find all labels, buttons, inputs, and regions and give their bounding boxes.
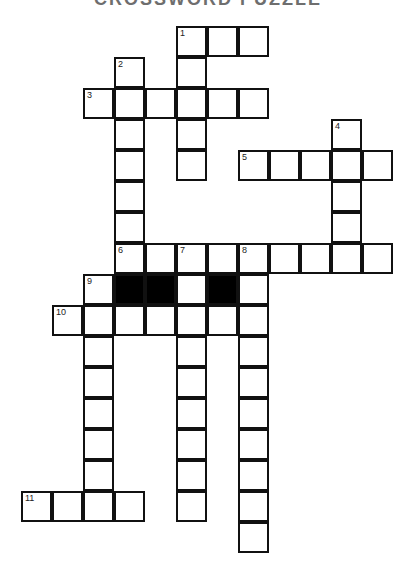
grid-cell[interactable] <box>52 491 83 522</box>
grid-cell[interactable] <box>176 57 207 88</box>
grid-cell[interactable] <box>238 429 269 460</box>
grid-cell[interactable] <box>331 181 362 212</box>
grid-cell[interactable] <box>83 398 114 429</box>
grid-cell[interactable] <box>362 243 393 274</box>
grid-cell[interactable]: 6 <box>114 243 145 274</box>
grid-cell[interactable] <box>331 150 362 181</box>
grid-cell[interactable] <box>176 367 207 398</box>
grid-cell[interactable] <box>238 398 269 429</box>
cell-input[interactable] <box>240 493 267 520</box>
grid-cell[interactable] <box>176 491 207 522</box>
grid-cell[interactable] <box>331 243 362 274</box>
cell-input[interactable] <box>85 462 112 489</box>
grid-cell[interactable]: 1 <box>176 26 207 57</box>
grid-cell[interactable] <box>114 305 145 336</box>
cell-input[interactable] <box>240 462 267 489</box>
cell-input[interactable] <box>240 245 267 272</box>
cell-input[interactable] <box>240 28 267 55</box>
grid-cell[interactable] <box>114 212 145 243</box>
grid-cell[interactable] <box>83 460 114 491</box>
grid-cell[interactable] <box>238 88 269 119</box>
grid-cell[interactable] <box>176 336 207 367</box>
grid-cell[interactable] <box>145 243 176 274</box>
cell-input[interactable] <box>333 152 360 179</box>
grid-cell[interactable] <box>176 274 207 305</box>
cell-input[interactable] <box>54 493 81 520</box>
cell-input[interactable] <box>23 493 50 520</box>
grid-cell[interactable] <box>83 305 114 336</box>
cell-input[interactable] <box>147 307 174 334</box>
cell-input[interactable] <box>85 90 112 117</box>
grid-cell[interactable] <box>238 26 269 57</box>
cell-input[interactable] <box>240 369 267 396</box>
cell-input[interactable] <box>178 400 205 427</box>
grid-cell[interactable] <box>269 243 300 274</box>
cell-input[interactable] <box>85 369 112 396</box>
cell-input[interactable] <box>271 245 298 272</box>
cell-input[interactable] <box>116 59 143 86</box>
cell-input[interactable] <box>116 245 143 272</box>
cell-input[interactable] <box>116 307 143 334</box>
grid-cell[interactable]: 4 <box>331 119 362 150</box>
cell-input[interactable] <box>85 493 112 520</box>
cell-input[interactable] <box>333 183 360 210</box>
cell-input[interactable] <box>178 90 205 117</box>
grid-cell[interactable] <box>207 305 238 336</box>
cell-input[interactable] <box>85 400 112 427</box>
cell-input[interactable] <box>209 245 236 272</box>
grid-cell[interactable] <box>269 150 300 181</box>
grid-cell[interactable]: 11 <box>21 491 52 522</box>
grid-cell[interactable] <box>176 460 207 491</box>
cell-input[interactable] <box>116 214 143 241</box>
grid-cell[interactable] <box>176 429 207 460</box>
cell-input[interactable] <box>240 431 267 458</box>
grid-cell[interactable] <box>83 491 114 522</box>
cell-input[interactable] <box>333 121 360 148</box>
grid-cell[interactable] <box>300 243 331 274</box>
cell-input[interactable] <box>271 152 298 179</box>
grid-cell[interactable] <box>176 305 207 336</box>
grid-cell[interactable] <box>331 212 362 243</box>
cell-input[interactable] <box>116 152 143 179</box>
cell-input[interactable] <box>302 245 329 272</box>
grid-cell[interactable]: 3 <box>83 88 114 119</box>
grid-cell[interactable] <box>207 243 238 274</box>
cell-input[interactable] <box>54 307 81 334</box>
grid-cell[interactable] <box>176 119 207 150</box>
grid-cell[interactable] <box>207 88 238 119</box>
grid-cell[interactable] <box>238 522 269 553</box>
grid-cell[interactable] <box>176 398 207 429</box>
cell-input[interactable] <box>178 152 205 179</box>
cell-input[interactable] <box>85 276 112 303</box>
cell-input[interactable] <box>178 338 205 365</box>
cell-input[interactable] <box>85 338 112 365</box>
cell-input[interactable] <box>147 90 174 117</box>
cell-input[interactable] <box>302 152 329 179</box>
cell-input[interactable] <box>333 214 360 241</box>
cell-input[interactable] <box>364 245 391 272</box>
grid-cell[interactable] <box>238 491 269 522</box>
grid-cell[interactable]: 8 <box>238 243 269 274</box>
cell-input[interactable] <box>333 245 360 272</box>
grid-cell[interactable] <box>238 274 269 305</box>
grid-cell[interactable]: 2 <box>114 57 145 88</box>
grid-cell[interactable] <box>238 367 269 398</box>
cell-input[interactable] <box>178 59 205 86</box>
grid-cell[interactable]: 7 <box>176 243 207 274</box>
grid-cell[interactable] <box>83 336 114 367</box>
cell-input[interactable] <box>178 431 205 458</box>
cell-input[interactable] <box>240 338 267 365</box>
grid-cell[interactable]: 10 <box>52 305 83 336</box>
grid-cell[interactable] <box>145 88 176 119</box>
cell-input[interactable] <box>364 152 391 179</box>
grid-cell[interactable] <box>145 305 176 336</box>
grid-cell[interactable] <box>114 181 145 212</box>
cell-input[interactable] <box>116 121 143 148</box>
cell-input[interactable] <box>240 524 267 551</box>
cell-input[interactable] <box>178 28 205 55</box>
cell-input[interactable] <box>178 307 205 334</box>
cell-input[interactable] <box>116 183 143 210</box>
cell-input[interactable] <box>240 152 267 179</box>
cell-input[interactable] <box>240 400 267 427</box>
grid-cell[interactable] <box>114 119 145 150</box>
